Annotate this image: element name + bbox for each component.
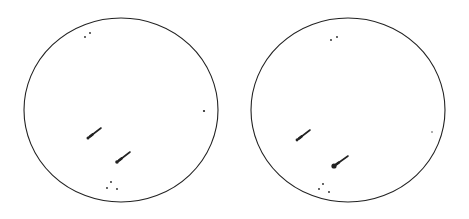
left-disk — [24, 18, 218, 202]
spot-dot — [89, 32, 91, 34]
arrow-marker-icon — [87, 128, 102, 140]
arrow-marker-icon — [115, 152, 130, 164]
spot-dot — [431, 131, 432, 132]
spot-dot — [106, 187, 108, 189]
spot-dot — [84, 36, 86, 38]
spot-dot — [110, 181, 112, 183]
spot-dot — [322, 183, 324, 185]
right-disk — [251, 18, 445, 202]
disk-outline — [24, 18, 218, 202]
spot-dot — [203, 110, 205, 112]
spot-dot — [116, 188, 118, 190]
arrow-marker-icon — [331, 156, 348, 169]
spot-dot — [336, 36, 338, 38]
spot-dot — [330, 39, 332, 41]
arrow-marker-icon — [296, 130, 310, 141]
spot-dot — [328, 191, 330, 193]
spot-dot — [318, 188, 320, 190]
solar-disk-figure — [0, 0, 469, 219]
disk-outline — [251, 18, 445, 202]
